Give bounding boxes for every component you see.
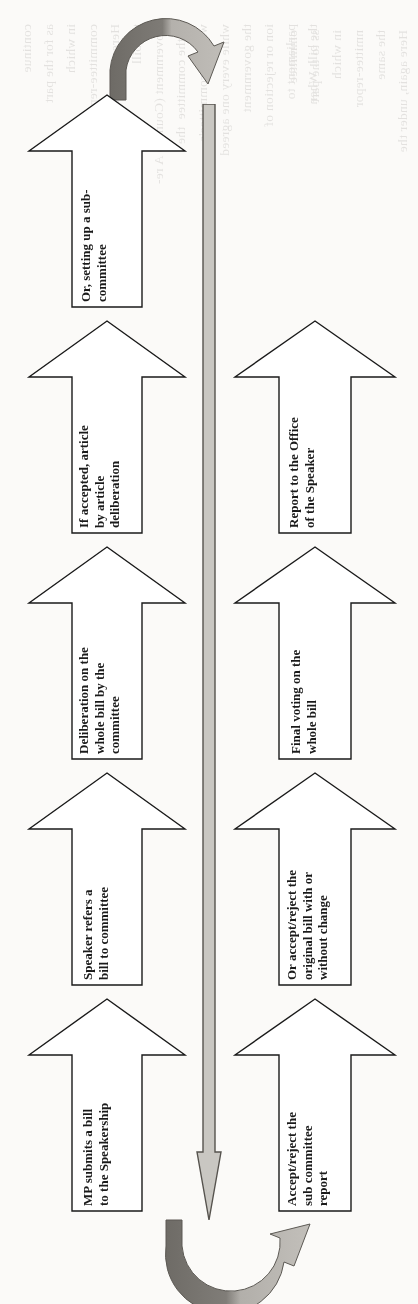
return-curve-bottom-arrow: [158, 1218, 338, 1304]
scanned-page: ommittee ss to the part in which nmittee…: [0, 0, 418, 1304]
arrow-speaker-refers[interactable]: Speaker refers a bill to committee: [26, 770, 188, 988]
arrow-sub-committee[interactable]: Or, setting up a sub- committee: [26, 92, 188, 310]
arrow-whole-bill-committee[interactable]: Deliberation on the whole bill by the co…: [26, 544, 188, 762]
arrow-mp-submits[interactable]: MP submits a bill to the Speakership: [26, 996, 188, 1214]
arrow-sub-committee-label: Or, setting up a sub- committee: [78, 156, 138, 302]
arrow-final-voting[interactable]: Final voting on the whole bill: [232, 544, 398, 762]
arrow-accept-reject-sub-label: Accept/reject the sub committee report: [284, 1060, 350, 1206]
bill-process-flowchart: Or, setting up a sub- committee If accep…: [0, 0, 418, 1304]
central-flow-arrow: [196, 104, 222, 1222]
arrow-mp-submits-label: MP submits a bill to the Speakership: [80, 1060, 138, 1206]
arrow-article-deliberation[interactable]: If accepted, article by article delibera…: [26, 318, 188, 536]
arrow-report-speaker-label: Report to the Office of the Speaker: [286, 382, 346, 528]
arrow-final-voting-label: Final voting on the whole bill: [288, 608, 346, 754]
arrow-article-deliberation-label: If accepted, article by article delibera…: [76, 382, 142, 528]
arrow-accept-reject-original[interactable]: Or accept/reject the original bill with …: [232, 770, 398, 988]
return-curve-top-arrow: [96, 8, 244, 104]
arrow-accept-reject-original-label: Or accept/reject the original bill with …: [284, 834, 350, 980]
arrow-speaker-refers-label: Speaker refers a bill to committee: [80, 834, 138, 980]
arrow-accept-reject-sub[interactable]: Accept/reject the sub committee report: [232, 996, 398, 1214]
arrow-whole-bill-committee-label: Deliberation on the whole bill by the co…: [76, 608, 142, 754]
arrow-report-speaker[interactable]: Report to the Office of the Speaker: [232, 318, 398, 536]
